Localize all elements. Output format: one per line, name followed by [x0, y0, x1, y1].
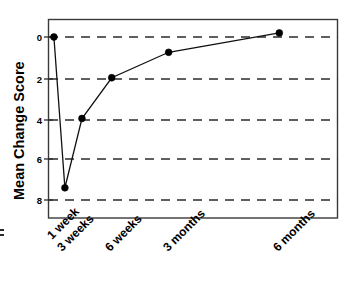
data-point	[79, 115, 86, 122]
y-tick-label-8: 8	[37, 195, 42, 206]
y-tick-label-6: 6	[37, 154, 42, 165]
data-point	[276, 30, 283, 37]
y-tick-label-0: 0	[37, 32, 42, 43]
edge-artifact-mark	[0, 234, 4, 236]
chart-container: Mean Change Score 0 2 4 6 8	[0, 0, 348, 292]
y-tick-label-4: 4	[37, 115, 43, 126]
line-chart: Mean Change Score 0 2 4 6 8	[0, 0, 348, 292]
y-axis-title: Mean Change Score	[11, 61, 27, 200]
data-point	[51, 34, 58, 41]
data-point	[108, 74, 115, 81]
edge-artifact-mark	[0, 229, 4, 231]
data-point	[165, 49, 172, 56]
y-tick-label-2: 2	[37, 74, 42, 85]
data-point	[61, 184, 68, 191]
